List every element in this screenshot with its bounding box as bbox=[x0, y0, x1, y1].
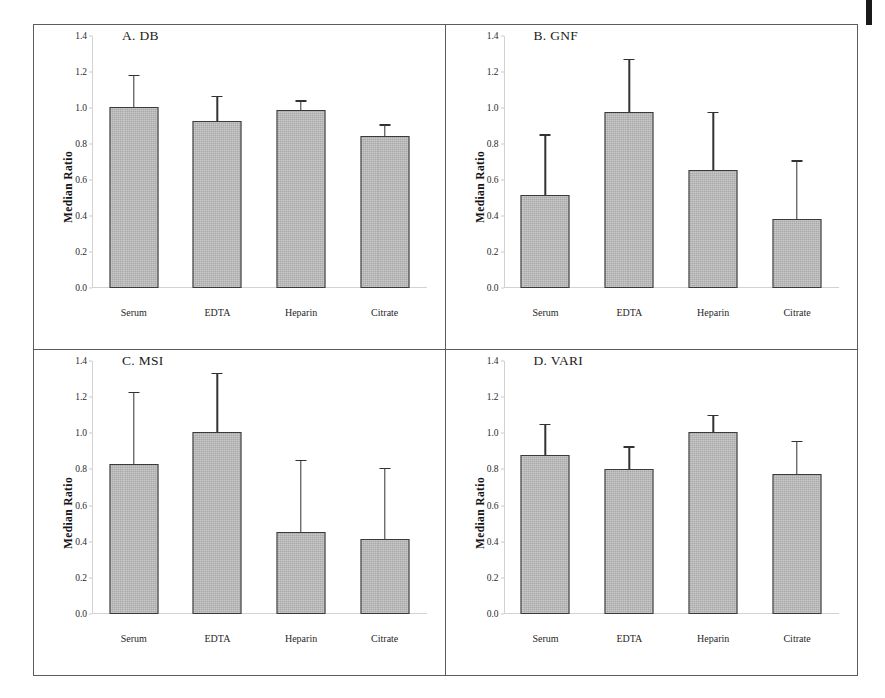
bar bbox=[521, 195, 570, 288]
bar bbox=[773, 219, 822, 288]
error-bar-cap bbox=[128, 75, 139, 76]
panel-c-plot-area: 0.00.20.40.60.81.01.21.4 SerumEDTAHepari… bbox=[92, 361, 427, 614]
error-bar-line bbox=[796, 161, 797, 219]
error-bar-line bbox=[300, 460, 301, 531]
bar bbox=[689, 432, 738, 614]
y-tick-label: 0.8 bbox=[75, 139, 87, 149]
error-bar-line bbox=[712, 113, 713, 171]
panel-c-y-axis-label: Median Ratio bbox=[62, 476, 74, 548]
y-tick-label: 0.0 bbox=[75, 609, 87, 619]
error-bar-cap bbox=[624, 59, 635, 60]
y-tick-label: 0.6 bbox=[487, 175, 499, 185]
bar bbox=[773, 474, 822, 614]
bar-group: Heparin bbox=[259, 36, 343, 288]
panel-b-bars: SerumEDTAHeparinCitrate bbox=[504, 36, 840, 288]
bar bbox=[109, 107, 158, 288]
y-tick-label: 0.4 bbox=[75, 211, 87, 221]
error-bar-line bbox=[796, 441, 797, 474]
x-tick-label: Citrate bbox=[783, 307, 810, 318]
x-tick-label: EDTA bbox=[616, 633, 642, 644]
error-bar-line bbox=[545, 135, 546, 195]
scan-artifact-mark bbox=[866, 0, 872, 25]
error-bar-line bbox=[384, 469, 385, 539]
error-bar-cap bbox=[296, 460, 307, 461]
y-tick-label: 0.0 bbox=[487, 283, 499, 293]
y-tick-label: 0.4 bbox=[487, 211, 499, 221]
y-tick-label: 1.2 bbox=[75, 392, 87, 402]
y-tick-label: 0.8 bbox=[487, 139, 499, 149]
x-tick-label: EDTA bbox=[205, 633, 231, 644]
error-bar-line bbox=[712, 415, 713, 432]
y-tick-label: 1.0 bbox=[75, 428, 87, 438]
bar-group: Heparin bbox=[259, 361, 343, 614]
bar-group: Citrate bbox=[343, 36, 427, 288]
y-tick-label: 0.2 bbox=[487, 247, 499, 257]
x-tick-label: Citrate bbox=[371, 633, 398, 644]
panel-c-bars: SerumEDTAHeparinCitrate bbox=[92, 361, 427, 614]
error-bar-line bbox=[133, 393, 134, 464]
y-tick-label: 0.8 bbox=[75, 464, 87, 474]
bar-group: Citrate bbox=[343, 361, 427, 614]
x-tick-label: Heparin bbox=[285, 633, 317, 644]
bar bbox=[360, 136, 409, 288]
bar bbox=[605, 469, 654, 614]
y-tick-label: 0.2 bbox=[75, 573, 87, 583]
bar-group: Heparin bbox=[671, 36, 755, 288]
x-tick-label: Citrate bbox=[783, 633, 810, 644]
bar bbox=[277, 110, 326, 288]
error-bar-cap bbox=[792, 441, 803, 442]
panel-c-msi: C. MSI Median Ratio 0.00.20.40.60.81.01.… bbox=[34, 350, 446, 675]
y-tick-label: 0.2 bbox=[75, 247, 87, 257]
y-tick-label: 1.2 bbox=[487, 392, 499, 402]
bar bbox=[193, 121, 242, 288]
y-tick-label: 0.0 bbox=[487, 609, 499, 619]
y-tick-label: 1.4 bbox=[487, 356, 499, 366]
error-bar-line bbox=[300, 101, 301, 110]
error-bar-cap bbox=[792, 160, 803, 161]
panel-b-y-axis-label: Median Ratio bbox=[474, 151, 486, 223]
x-tick-label: Citrate bbox=[371, 307, 398, 318]
error-bar-cap bbox=[212, 96, 223, 97]
error-bar-line bbox=[629, 447, 630, 470]
bar-group: Citrate bbox=[755, 361, 839, 614]
x-tick-label: Serum bbox=[532, 633, 558, 644]
error-bar-line bbox=[384, 125, 385, 136]
bar bbox=[521, 455, 570, 614]
error-bar-cap bbox=[624, 446, 635, 447]
panel-b-gnf: B. GNF Median Ratio 0.00.20.40.60.81.01.… bbox=[446, 25, 858, 350]
y-tick-label: 1.2 bbox=[487, 67, 499, 77]
error-bar-line bbox=[629, 59, 630, 111]
bar-group: Heparin bbox=[671, 361, 755, 614]
x-tick-label: Serum bbox=[532, 307, 558, 318]
bar bbox=[193, 432, 242, 614]
panel-a-plot-area: 0.00.20.40.60.81.01.21.4 SerumEDTAHepari… bbox=[92, 36, 427, 288]
error-bar-line bbox=[217, 374, 218, 433]
error-bar-line bbox=[133, 76, 134, 108]
bar-group: EDTA bbox=[176, 36, 260, 288]
bar bbox=[109, 464, 158, 614]
panel-grid: A. DB Median Ratio 0.00.20.40.60.81.01.2… bbox=[34, 25, 857, 675]
y-tick-label: 0.8 bbox=[487, 464, 499, 474]
error-bar-cap bbox=[296, 100, 307, 101]
error-bar-line bbox=[217, 96, 218, 120]
y-tick-label: 0.2 bbox=[487, 573, 499, 583]
bar bbox=[689, 170, 738, 288]
y-tick-label: 1.2 bbox=[75, 67, 87, 77]
panel-b-plot-area: 0.00.20.40.60.81.01.21.4 SerumEDTAHepari… bbox=[504, 36, 840, 288]
figure-frame: A. DB Median Ratio 0.00.20.40.60.81.01.2… bbox=[33, 24, 858, 676]
bar-group: Serum bbox=[92, 36, 176, 288]
bar-group: Serum bbox=[504, 361, 588, 614]
error-bar-cap bbox=[708, 112, 719, 113]
x-tick-label: EDTA bbox=[616, 307, 642, 318]
y-tick-label: 1.4 bbox=[75, 31, 87, 41]
error-bar-cap bbox=[379, 468, 390, 469]
panel-a-y-axis-label: Median Ratio bbox=[62, 151, 74, 223]
x-tick-label: Heparin bbox=[697, 633, 729, 644]
bar bbox=[360, 539, 409, 614]
panel-d-plot-area: 0.00.20.40.60.81.01.21.4 SerumEDTAHepari… bbox=[504, 361, 840, 614]
y-tick-label: 0.0 bbox=[75, 283, 87, 293]
error-bar-cap bbox=[379, 124, 390, 125]
bar bbox=[277, 532, 326, 614]
y-tick-label: 1.4 bbox=[75, 356, 87, 366]
x-tick-label: Heparin bbox=[697, 307, 729, 318]
